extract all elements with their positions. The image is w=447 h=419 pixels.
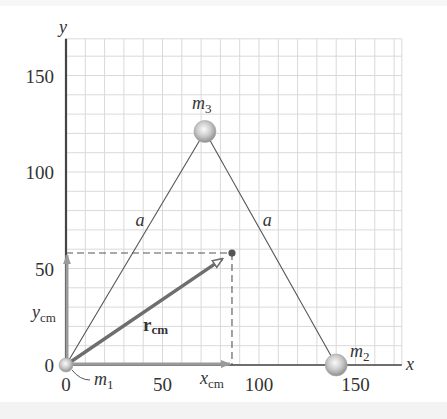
center-of-mass-dot [228, 249, 235, 256]
y-tick-label: 0 [45, 355, 55, 376]
r-cm-label-subscript: cm [151, 322, 168, 337]
y-tick-label: 50 [35, 259, 54, 280]
x-cm-label: xcm [199, 368, 224, 391]
r-cm-arrow [66, 259, 222, 365]
mass-m1-label-main: m [94, 369, 107, 389]
mass-m2-sphere [325, 354, 347, 376]
side-length-label: a [263, 210, 272, 230]
mass-m3-label-subscript: 3 [205, 101, 212, 116]
x-cm-label-main: x [199, 368, 208, 388]
side-length-label: a [135, 210, 144, 230]
x-axis-label: x [405, 354, 414, 374]
center-of-mass-diagram: 050100150050100150xy m1m2m3aarcmxcmycm [0, 0, 447, 419]
diagram-canvas: 050100150050100150xy m1m2m3aarcmxcmycm [0, 0, 447, 419]
mass-m3-label-main: m [192, 93, 205, 113]
mass-m3-label: m3 [192, 93, 212, 116]
grid [66, 39, 402, 365]
x-cm-label-subscript: cm [208, 376, 224, 391]
y-cm-label: ycm [30, 302, 56, 325]
y-tick-label: 150 [26, 66, 55, 87]
y-cm-label-main: y [30, 302, 40, 322]
side-m1-m3 [66, 131, 205, 365]
y-tick-label: 100 [26, 162, 55, 183]
y-cm-label-subscript: cm [40, 310, 56, 325]
r-cm-label: rcm [143, 314, 168, 337]
mass-m2-label-subscript: 2 [363, 349, 370, 364]
x-tick-label: 150 [341, 374, 370, 395]
y-axis-label: y [57, 17, 67, 37]
mass-m1-label-subscript: 1 [107, 377, 114, 392]
mass-m1-sphere [59, 358, 73, 372]
mass-m3-sphere [194, 120, 216, 142]
m1-leader-line [72, 370, 90, 380]
mass-m1-label: m1 [94, 369, 114, 392]
x-tick-label: 100 [245, 374, 274, 395]
mass-m2-label-main: m [350, 341, 363, 361]
x-tick-label: 0 [61, 374, 71, 395]
mass-m2-label: m2 [350, 341, 370, 364]
x-tick-label: 50 [153, 374, 172, 395]
